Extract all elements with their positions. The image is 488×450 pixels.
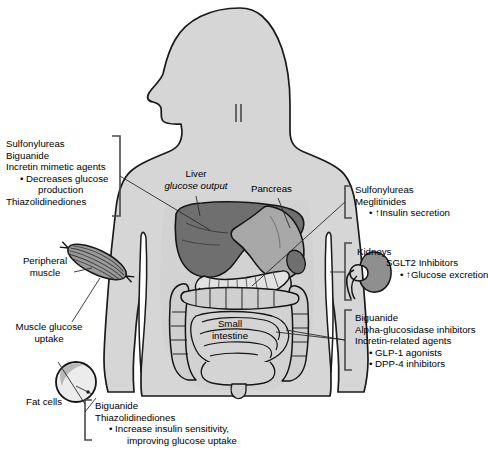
diagram-canvas: Sulfonylureas Biguanide Incretin mimetic… xyxy=(0,0,488,450)
intestine-block-line-3: Incretin-related agents xyxy=(355,335,488,347)
fat-block-bullet-1-cont: improving glucose uptake xyxy=(95,435,325,447)
intestine-block-line-2: Alpha-glucosidase inhibitors xyxy=(355,324,488,336)
liver-block-line-1: Sulfonylureas xyxy=(6,138,114,150)
liver-sublabel: glucose output xyxy=(150,180,242,192)
kidney-block-line-1: SGLT2 Inhibitors xyxy=(386,257,488,269)
annotation-intestine-block: Biguanide Alpha-glucosidase inhibitors I… xyxy=(355,312,488,370)
kidney-block-bullet-1: • ↑Glucose excretion xyxy=(386,269,488,281)
fat-block-line-2: Thiazolidinediones xyxy=(95,412,325,424)
liver-block-trailing-1: Thiazolidinediones xyxy=(6,196,114,208)
liver-block-line-2: Biguanide xyxy=(6,150,114,162)
liver-label: Liver xyxy=(163,168,229,180)
intestine-block-line-1: Biguanide xyxy=(355,312,488,324)
peripheral-muscle-label-line2: muscle xyxy=(14,267,76,279)
small-intestine-label-line2: intestine xyxy=(198,330,262,342)
fat-block-line-1: Biguanide xyxy=(95,400,325,412)
annotation-kidney-block: SGLT2 Inhibitors • ↑Glucose excretion xyxy=(386,257,488,280)
fat-block-bullet-1: • Increase insulin sensitivity, xyxy=(95,423,325,435)
small-intestine-label-line1: Small xyxy=(204,318,256,330)
liver-block-bullet-1: • Decreases glucose xyxy=(6,173,114,185)
pancreas-label: Pancreas xyxy=(251,183,292,195)
muscle-uptake-label-line2: uptake xyxy=(8,333,90,345)
peripheral-muscle-label-line1: Peripheral xyxy=(14,255,76,267)
bracket-fat xyxy=(85,400,92,440)
pancreas-block-line-1: Sulfonylureas xyxy=(355,184,485,196)
liver-block-line-3: Incretin mimetic agents xyxy=(6,161,114,173)
liver-block-bullet-1-cont: production xyxy=(6,184,114,196)
kidneys-label: Kidneys xyxy=(357,246,391,258)
anatomy-artwork xyxy=(0,0,488,450)
annotation-fat-block: Biguanide Thiazolidinediones • Increase … xyxy=(95,400,325,446)
annotation-liver-block: Sulfonylureas Biguanide Incretin mimetic… xyxy=(6,138,114,208)
annotation-pancreas-block: Sulfonylureas Meglitinides • ↑Insulin se… xyxy=(355,184,485,219)
muscle-uptake-label-line1: Muscle glucose xyxy=(8,321,90,333)
pancreas-block-line-2: Meglitinides xyxy=(355,196,485,208)
intestine-block-bullet-2: • DPP-4 inhibitors xyxy=(355,358,488,370)
pancreas-block-bullet-1: • ↑Insulin secretion xyxy=(355,207,485,219)
fat-cells-label: Fat cells xyxy=(26,396,62,408)
intestine-block-bullet-1: • GLP-1 agonists xyxy=(355,347,488,359)
